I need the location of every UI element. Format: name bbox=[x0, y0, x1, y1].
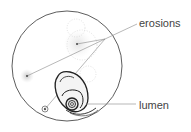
erosion-point-top bbox=[76, 43, 78, 45]
lumen-structure bbox=[55, 72, 98, 116]
erosion-point-left bbox=[26, 75, 28, 77]
erosions-label: erosions bbox=[139, 18, 181, 29]
erosions-lumen-diagram: erosions lumen bbox=[0, 0, 191, 132]
lumen-label: lumen bbox=[139, 100, 169, 111]
